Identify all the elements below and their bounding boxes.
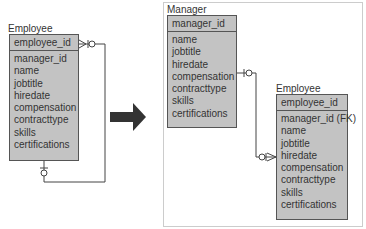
manager-employee-relationship-line (237, 69, 276, 161)
self-relationship-line (40, 40, 105, 182)
right-arrow-icon (110, 103, 146, 131)
relationship-lines (0, 0, 366, 229)
